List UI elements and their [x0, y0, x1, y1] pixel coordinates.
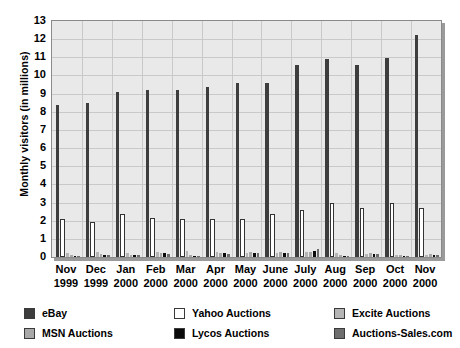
bar-ebay — [86, 103, 89, 257]
bar-excite — [66, 253, 69, 257]
y-axis-tick-7: 7 — [20, 124, 46, 135]
y-axis-tick-3: 3 — [20, 197, 46, 208]
legend-item[interactable]: eBay — [24, 307, 174, 319]
legend-label: Auctions-Sales.com — [352, 327, 452, 339]
bar-auctionssalescom — [197, 256, 200, 257]
bar-excite — [246, 253, 249, 257]
bar-msn — [279, 252, 282, 257]
bar-cluster — [415, 21, 440, 257]
x-axis-label: Nov1999 — [51, 262, 81, 290]
bar-msn — [309, 252, 312, 257]
bar-lycos — [313, 251, 316, 257]
bar-msn — [369, 253, 372, 257]
legend-item[interactable]: MSN Auctions — [24, 327, 174, 339]
x-axis-tick-labels: Nov1999Dec1999Jan2000Feb2000Mar2000Apr20… — [51, 262, 442, 296]
bar-ebay — [295, 65, 298, 257]
y-axis-tick-6: 6 — [20, 142, 46, 153]
bar-auctionssalescom — [167, 254, 170, 257]
bar-msn — [429, 254, 432, 257]
x-axis-label: Mar2000 — [171, 262, 201, 290]
legend-item[interactable]: Auctions-Sales.com — [334, 327, 460, 339]
y-axis-tick-2: 2 — [20, 215, 46, 226]
bar-lycos — [223, 253, 226, 257]
bar-cluster — [236, 21, 261, 257]
bar-auctionssalescom — [107, 255, 110, 257]
bar-excite — [186, 251, 189, 257]
bar-ebay — [385, 58, 388, 257]
chart-legend: eBayYahoo AuctionsExcite AuctionsMSN Auc… — [24, 303, 448, 343]
bar-cluster — [176, 21, 201, 257]
y-axis-tick-4: 4 — [20, 178, 46, 189]
bar-yahoo — [240, 219, 245, 257]
bar-msn — [100, 254, 103, 257]
bar-auctionssalescom — [287, 253, 290, 257]
y-axis-tick-5: 5 — [20, 160, 46, 171]
y-axis-tick-11: 11 — [20, 51, 46, 62]
plot-area — [51, 20, 442, 258]
legend-label: Excite Auctions — [352, 307, 430, 319]
bar-auctionssalescom — [406, 256, 409, 257]
x-axis-label: Apr2000 — [201, 262, 231, 290]
bar-auctionssalescom — [317, 249, 320, 257]
bar-auctionssalescom — [376, 254, 379, 257]
bar-ebay — [265, 83, 268, 257]
bar-cluster — [325, 21, 350, 257]
legend-label: eBay — [42, 307, 67, 319]
bar-yahoo — [90, 222, 95, 257]
bar-chart: Monthly visitors (in millions) 012345678… — [0, 0, 460, 348]
bar-yahoo — [270, 214, 275, 257]
legend-item[interactable]: Lycos Auctions — [174, 327, 334, 339]
bar-yahoo — [180, 219, 185, 257]
bar-yahoo — [330, 203, 335, 257]
bar-excite — [156, 252, 159, 257]
legend-swatch-icon — [334, 328, 345, 339]
bar-ebay — [355, 65, 358, 257]
bar-yahoo — [390, 203, 395, 257]
bar-msn — [399, 255, 402, 257]
bar-ebay — [206, 87, 209, 257]
bar-lycos — [343, 256, 346, 257]
bar-lycos — [163, 253, 166, 257]
bar-msn — [249, 252, 252, 257]
legend-label: Yahoo Auctions — [192, 307, 271, 319]
y-axis-tick-1: 1 — [20, 233, 46, 244]
y-axis-tick-10: 10 — [20, 69, 46, 80]
bar-auctionssalescom — [347, 256, 350, 257]
y-axis-tick-8: 8 — [20, 106, 46, 117]
x-axis-label: Dec1999 — [81, 262, 111, 290]
bar-auctionssalescom — [257, 253, 260, 257]
bar-excite — [395, 255, 398, 257]
x-axis-label: Nov2000 — [410, 262, 440, 290]
legend-item[interactable]: Yahoo Auctions — [174, 307, 334, 319]
bar-lycos — [74, 256, 77, 257]
bar-excite — [335, 253, 338, 257]
bar-excite — [365, 254, 368, 257]
legend-swatch-icon — [24, 308, 35, 319]
bar-yahoo — [210, 219, 215, 257]
x-axis-label: Jan2000 — [111, 262, 141, 290]
bar-ebay — [146, 90, 149, 257]
bar-cluster — [86, 21, 111, 257]
bar-lycos — [133, 255, 136, 257]
y-axis-tick-13: 13 — [20, 15, 46, 26]
x-axis-label: May2000 — [231, 262, 261, 290]
bar-excite — [216, 252, 219, 257]
bar-msn — [189, 255, 192, 257]
bar-ebay — [56, 105, 59, 257]
x-axis-label: Aug2000 — [320, 262, 350, 290]
legend-item[interactable]: Excite Auctions — [334, 307, 460, 319]
bar-auctionssalescom — [137, 255, 140, 257]
bar-lycos — [193, 256, 196, 257]
legend-label: MSN Auctions — [42, 327, 113, 339]
bar-cluster — [56, 21, 81, 257]
bar-lycos — [433, 255, 436, 257]
x-axis-label: Oct2000 — [380, 262, 410, 290]
bar-cluster — [355, 21, 380, 257]
bar-cluster — [295, 21, 320, 257]
bar-msn — [160, 253, 163, 257]
bar-msn — [130, 255, 133, 257]
legend-swatch-icon — [174, 308, 185, 319]
bar-excite — [425, 255, 428, 257]
x-axis-label: July2000 — [290, 262, 320, 290]
bar-auctionssalescom — [227, 254, 230, 257]
